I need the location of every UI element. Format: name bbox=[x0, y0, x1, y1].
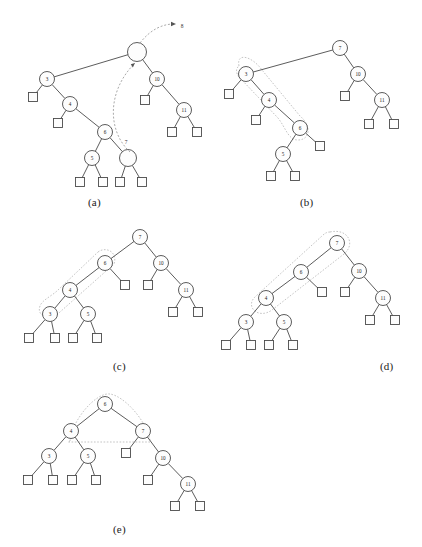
tree-node-value: 6 bbox=[104, 401, 107, 407]
tree-edge bbox=[192, 491, 198, 502]
tree-edge bbox=[54, 437, 66, 451]
tree-edge bbox=[90, 463, 94, 476]
tree-edge bbox=[147, 437, 158, 452]
tree-node-value: 7 bbox=[142, 428, 145, 434]
tree-edge bbox=[75, 437, 84, 450]
tree-node-value: 5 bbox=[87, 453, 90, 459]
leaf-node bbox=[49, 476, 58, 485]
leaf-node bbox=[68, 476, 77, 485]
leaf-node bbox=[24, 476, 33, 485]
leaf-node bbox=[92, 476, 101, 485]
leaf-node bbox=[196, 502, 205, 511]
tree-edge bbox=[111, 408, 137, 426]
leaf-node bbox=[144, 476, 153, 485]
tree-node-value: 11 bbox=[186, 481, 191, 487]
tree-edge bbox=[74, 462, 83, 476]
panel-caption-e: (e) bbox=[113, 523, 126, 535]
tree-edge bbox=[31, 462, 44, 477]
tree-edge bbox=[168, 463, 183, 478]
tree-edge bbox=[177, 490, 184, 502]
tree-edge bbox=[151, 464, 159, 476]
tree-node-value: 3 bbox=[48, 453, 51, 459]
leaf-node bbox=[122, 449, 131, 458]
tree-node-value: 4 bbox=[70, 428, 73, 434]
panel-e: 647351011 bbox=[0, 0, 422, 547]
tree-edge bbox=[77, 409, 99, 427]
tree-edge bbox=[50, 463, 52, 475]
leaf-node bbox=[171, 502, 180, 511]
tree-edge bbox=[129, 437, 139, 450]
tree-node-value: 10 bbox=[160, 455, 166, 461]
